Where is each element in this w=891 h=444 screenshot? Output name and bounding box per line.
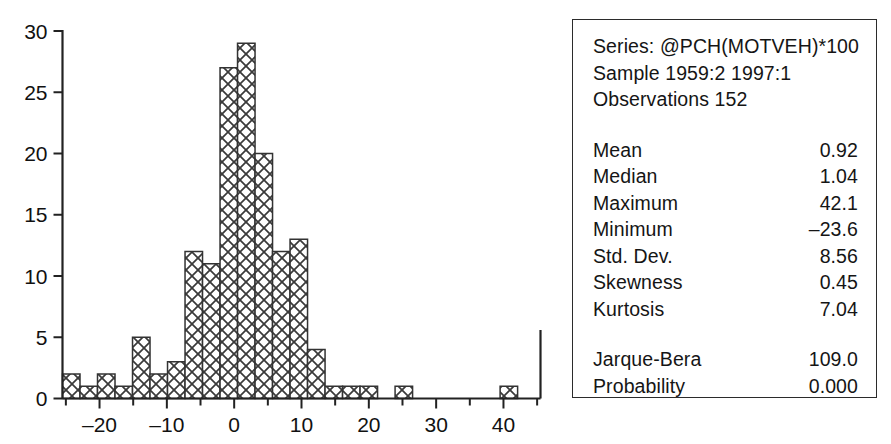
histogram-svg: 051015202530 –20–10010203040 bbox=[0, 0, 560, 444]
statistic-row: Maximum42.1 bbox=[593, 190, 858, 217]
statistic-label: Skewness bbox=[593, 269, 683, 296]
statistic-label: Std. Dev. bbox=[593, 243, 673, 270]
histogram-bar bbox=[500, 386, 518, 398]
statistic-label: Mean bbox=[593, 137, 642, 164]
y-axis-ticks bbox=[54, 31, 63, 399]
statistic-label: Kurtosis bbox=[593, 296, 664, 323]
histogram-bar bbox=[395, 386, 413, 398]
histogram-bar bbox=[360, 386, 378, 398]
histogram-bar bbox=[290, 239, 308, 398]
series-name-line: Series: @PCH(MOTVEH)*100 bbox=[593, 33, 858, 60]
test-statistic-label: Probability bbox=[593, 373, 685, 400]
statistic-row: Median1.04 bbox=[593, 163, 858, 190]
histogram-chart-panel: 051015202530 –20–10010203040 bbox=[0, 0, 560, 444]
x-axis-tick-label: 30 bbox=[424, 413, 447, 436]
stats-spacer-bottom bbox=[593, 322, 858, 346]
statistic-value: 0.92 bbox=[820, 137, 858, 164]
histogram-bar bbox=[238, 43, 256, 398]
sample-range-line: Sample 1959:2 1997:1 bbox=[593, 60, 858, 87]
statistic-label: Maximum bbox=[593, 190, 678, 217]
statistic-label: Minimum bbox=[593, 216, 673, 243]
test-statistic-label: Jarque-Bera bbox=[593, 346, 701, 373]
statistic-row: Skewness0.45 bbox=[593, 269, 858, 296]
y-axis-tick-label: 5 bbox=[36, 326, 48, 349]
y-axis-tick-label: 10 bbox=[24, 265, 47, 288]
histogram-bar bbox=[133, 337, 151, 398]
histogram-bar bbox=[343, 386, 361, 398]
statistic-value: 0.45 bbox=[820, 269, 858, 296]
x-axis-tick-label: 10 bbox=[290, 413, 313, 436]
histogram-bar bbox=[325, 386, 343, 398]
histogram-bar bbox=[98, 374, 116, 399]
y-axis-tick-label: 15 bbox=[24, 203, 47, 226]
statistic-value: 42.1 bbox=[820, 190, 858, 217]
test-statistic-row: Probability0.000 bbox=[593, 373, 858, 400]
statistic-value: 8.56 bbox=[820, 243, 858, 270]
histogram-bar bbox=[220, 68, 238, 399]
statistic-row: Kurtosis7.04 bbox=[593, 296, 858, 323]
x-axis-tick-label: 40 bbox=[492, 413, 515, 436]
normality-test-list: Jarque-Bera109.0Probability0.000 bbox=[593, 346, 858, 399]
x-axis-tick-label: 0 bbox=[228, 413, 240, 436]
histogram-bars bbox=[63, 43, 518, 398]
descriptive-statistics-panel: Series: @PCH(MOTVEH)*100 Sample 1959:2 1… bbox=[572, 19, 877, 398]
x-axis-tick-label: –20 bbox=[82, 413, 117, 436]
histogram-bar bbox=[80, 386, 98, 398]
eviews-histogram-output: 051015202530 –20–10010203040 Series: @PC… bbox=[0, 0, 891, 444]
histogram-bar bbox=[185, 252, 203, 399]
histogram-bar bbox=[308, 350, 326, 399]
test-statistic-value: 0.000 bbox=[809, 373, 858, 400]
histogram-bar bbox=[168, 362, 186, 399]
x-axis-tick-labels: –20–10010203040 bbox=[82, 413, 515, 436]
y-axis-tick-label: 25 bbox=[24, 81, 47, 104]
histogram-bar bbox=[115, 386, 133, 398]
y-axis-tick-label: 30 bbox=[24, 20, 47, 43]
y-axis-tick-label: 20 bbox=[24, 142, 47, 165]
observations-count-line: Observations 152 bbox=[593, 86, 858, 113]
histogram-bar bbox=[273, 252, 291, 399]
histogram-bar bbox=[255, 154, 272, 399]
histogram-bar bbox=[150, 374, 168, 399]
statistic-value: –23.6 bbox=[809, 216, 858, 243]
x-axis-tick-label: 20 bbox=[357, 413, 380, 436]
x-axis-ticks bbox=[66, 399, 537, 409]
statistic-row: Mean0.92 bbox=[593, 137, 858, 164]
histogram-bar bbox=[63, 374, 81, 399]
test-statistic-value: 109.0 bbox=[809, 346, 858, 373]
x-axis-tick-label: –10 bbox=[149, 413, 184, 436]
statistic-row: Minimum–23.6 bbox=[593, 216, 858, 243]
summary-statistics-list: Mean0.92Median1.04Maximum42.1Minimum–23.… bbox=[593, 137, 858, 323]
test-statistic-row: Jarque-Bera109.0 bbox=[593, 346, 858, 373]
y-axis-tick-label: 0 bbox=[36, 387, 48, 410]
statistic-label: Median bbox=[593, 163, 658, 190]
stats-spacer-top bbox=[593, 113, 858, 137]
histogram-bar bbox=[203, 264, 221, 399]
statistic-value: 1.04 bbox=[820, 163, 858, 190]
statistic-row: Std. Dev.8.56 bbox=[593, 243, 858, 270]
statistic-value: 7.04 bbox=[820, 296, 858, 323]
y-axis-tick-labels: 051015202530 bbox=[24, 20, 47, 411]
